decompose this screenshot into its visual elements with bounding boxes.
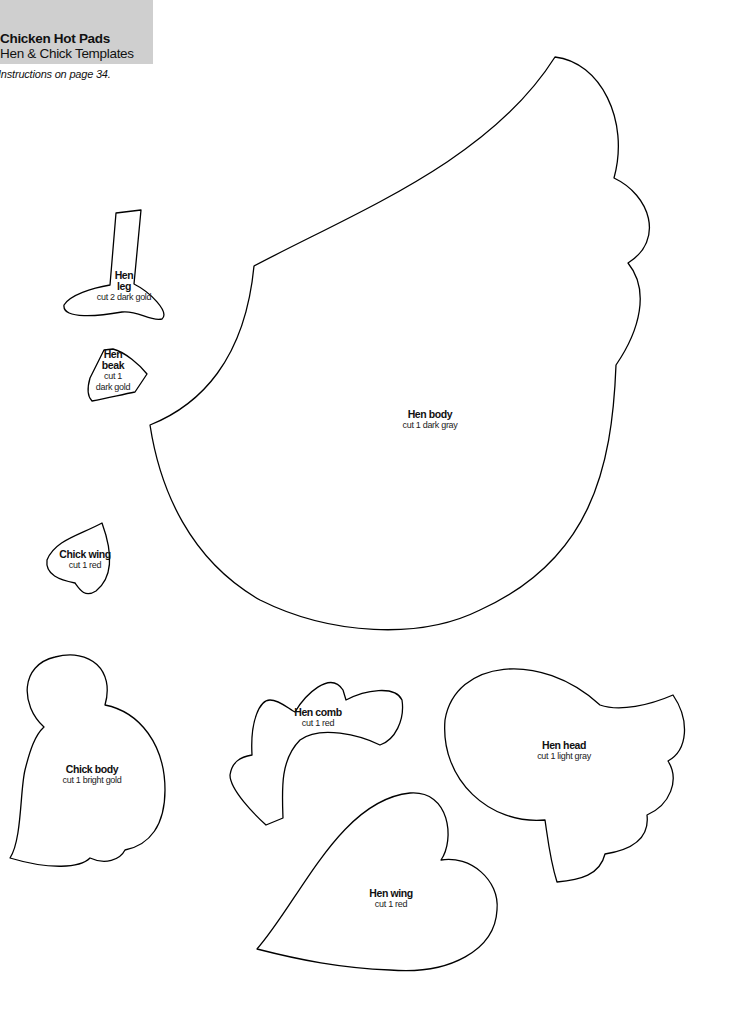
hen-beak-name-2: beak bbox=[96, 360, 130, 371]
hen-head-label: Hen head cut 1 light gray bbox=[537, 740, 591, 762]
hen-leg-cut: cut 2 dark gold bbox=[97, 292, 152, 303]
hen-head-outline bbox=[445, 669, 685, 882]
hen-body-outline bbox=[150, 57, 649, 630]
hen-comb-name: Hen comb bbox=[294, 707, 342, 718]
chick-wing-cut: cut 1 red bbox=[59, 560, 110, 571]
hen-head-cut: cut 1 light gray bbox=[537, 751, 591, 762]
hen-body-cut: cut 1 dark gray bbox=[402, 420, 457, 431]
hen-head-name: Hen head bbox=[537, 740, 591, 751]
hen-beak-cut-1: cut 1 bbox=[96, 371, 130, 382]
template-pieces bbox=[0, 0, 731, 1010]
hen-leg-name-2: leg bbox=[97, 281, 152, 292]
hen-comb-label: Hen comb cut 1 red bbox=[294, 707, 342, 729]
chick-body-label: Chick body cut 1 bright gold bbox=[63, 764, 122, 786]
hen-comb-cut: cut 1 red bbox=[294, 718, 342, 729]
hen-leg-label: Hen leg cut 2 dark gold bbox=[97, 270, 152, 303]
hen-wing-label: Hen wing cut 1 red bbox=[369, 888, 412, 910]
hen-beak-cut-2: dark gold bbox=[96, 382, 130, 393]
hen-wing-name: Hen wing bbox=[369, 888, 412, 899]
chick-wing-name: Chick wing bbox=[59, 549, 110, 560]
hen-wing-outline bbox=[257, 793, 497, 971]
hen-beak-label: Hen beak cut 1 dark gold bbox=[96, 349, 130, 393]
chick-body-name: Chick body bbox=[63, 764, 122, 775]
chick-wing-label: Chick wing cut 1 red bbox=[59, 549, 110, 571]
chick-body-cut: cut 1 bright gold bbox=[63, 775, 122, 786]
hen-body-label: Hen body cut 1 dark gray bbox=[402, 409, 457, 431]
hen-wing-cut: cut 1 red bbox=[369, 899, 412, 910]
chick-body-outline bbox=[10, 655, 165, 866]
hen-leg-outline bbox=[64, 210, 164, 319]
hen-body-name: Hen body bbox=[402, 409, 457, 420]
